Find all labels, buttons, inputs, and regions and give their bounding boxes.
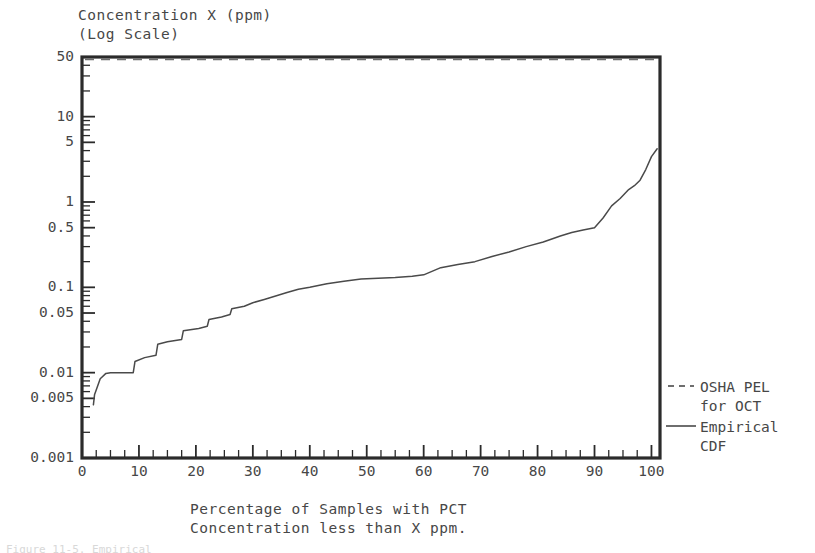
x-axis-title: Percentage of Samples with PCTConcentrat… — [190, 500, 467, 538]
y-tick-label: 5 — [0, 133, 74, 149]
y-axis-title-line1: Concentration X (ppm) — [78, 7, 272, 23]
legend-osha-line2: for OCT — [700, 398, 761, 414]
x-tick-label: 90 — [586, 463, 603, 479]
x-tick-label: 20 — [187, 463, 204, 479]
y-tick-label: 1 — [0, 193, 74, 209]
page-caption-sliver: Figure 11-5. Empirical — [6, 543, 152, 553]
y-tick-label: 0.001 — [0, 449, 74, 465]
axis-minor-ticks — [82, 65, 637, 458]
x-tick-label: 40 — [301, 463, 318, 479]
figure-container: Concentration X (ppm)(Log Scale) Percent… — [0, 0, 815, 553]
empirical-cdf-curve — [93, 149, 657, 405]
y-tick-label: 10 — [0, 108, 74, 124]
legend-osha-line1: OSHA PEL — [700, 379, 770, 395]
x-axis-title-line1: Percentage of Samples with PCT — [190, 501, 467, 517]
y-tick-label: 0.05 — [0, 304, 74, 320]
x-tick-label: 10 — [130, 463, 147, 479]
y-tick-label: 0.005 — [0, 389, 74, 405]
x-axis-title-line2: Concentration less than X ppm. — [190, 520, 467, 536]
x-tick-label: 100 — [638, 463, 664, 479]
x-tick-label: 60 — [415, 463, 432, 479]
y-axis-title: Concentration X (ppm)(Log Scale) — [78, 6, 272, 44]
legend-line-samples — [666, 386, 696, 426]
axis-major-ticks — [82, 57, 651, 458]
y-tick-label: 0.1 — [0, 278, 74, 294]
plot-frame — [82, 57, 660, 458]
legend-item-empirical-cdf-label: EmpiricalCDF — [700, 418, 779, 456]
y-tick-label: 0.01 — [0, 364, 74, 380]
x-tick-label: 30 — [244, 463, 261, 479]
x-tick-label: 80 — [529, 463, 546, 479]
y-axis-title-line2: (Log Scale) — [78, 26, 180, 42]
legend-item-osha-pel-label: OSHA PELfor OCT — [700, 378, 770, 416]
y-tick-label: 0.5 — [0, 219, 74, 235]
plot-canvas — [0, 0, 815, 553]
x-tick-label: 0 — [78, 463, 87, 479]
legend-cdf-line2: CDF — [700, 438, 726, 454]
y-tick-label: 50 — [0, 48, 74, 64]
x-tick-label: 50 — [358, 463, 375, 479]
x-tick-label: 70 — [472, 463, 489, 479]
legend-cdf-line1: Empirical — [700, 419, 779, 435]
